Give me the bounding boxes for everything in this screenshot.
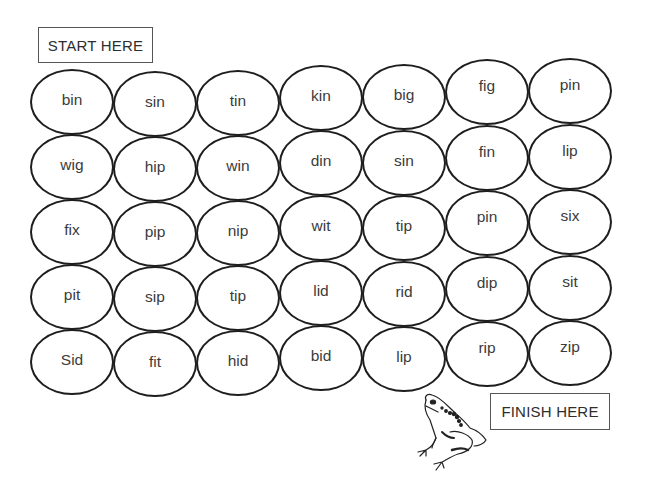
stone-r3-c3[interactable]: nip — [196, 200, 280, 266]
stone-r3-c5[interactable]: tip — [362, 195, 446, 261]
stone-r2-c7[interactable]: lip — [528, 124, 612, 190]
stone-word: fix — [64, 221, 80, 239]
stone-r5-c6[interactable]: rip — [445, 321, 529, 387]
stone-r2-c2[interactable]: hip — [113, 136, 197, 202]
stone-word: kin — [311, 87, 331, 105]
start-here-label: START HERE — [38, 27, 153, 63]
stone-word: fit — [149, 353, 161, 371]
stone-word: pit — [64, 286, 80, 304]
stone-r4-c1[interactable]: pit — [30, 264, 114, 330]
stone-r1-c5[interactable]: big — [362, 64, 446, 130]
frog-icon — [412, 390, 496, 474]
stone-word: hip — [145, 158, 166, 176]
stone-word: dip — [477, 274, 498, 292]
stone-word: din — [311, 152, 332, 170]
stone-r5-c1[interactable]: Sid — [30, 329, 114, 395]
stone-word: bin — [62, 91, 83, 109]
stone-r5-c2[interactable]: fit — [113, 331, 197, 397]
stone-r3-c4[interactable]: wit — [279, 195, 363, 261]
stone-r4-c5[interactable]: rid — [362, 261, 446, 327]
stone-word: lid — [313, 282, 329, 300]
stone-r2-c6[interactable]: fin — [445, 125, 529, 191]
stone-r3-c7[interactable]: six — [528, 189, 612, 255]
stone-word: sin — [394, 152, 414, 170]
stone-word: rip — [478, 339, 495, 357]
stone-r3-c1[interactable]: fix — [30, 199, 114, 265]
stone-word: tip — [396, 217, 412, 235]
stone-r4-c4[interactable]: lid — [279, 260, 363, 326]
stone-word: zip — [560, 338, 580, 356]
stone-r4-c7[interactable]: sit — [528, 255, 612, 321]
stone-word: pip — [145, 223, 166, 241]
stone-word: sip — [145, 288, 165, 306]
stone-word: lip — [396, 348, 412, 366]
stone-r5-c7[interactable]: zip — [528, 320, 612, 386]
stone-r5-c5[interactable]: lip — [362, 326, 446, 392]
stone-word: tip — [230, 287, 246, 305]
stone-r2-c4[interactable]: din — [279, 130, 363, 196]
stone-word: big — [394, 86, 415, 104]
stone-r5-c3[interactable]: hid — [196, 330, 280, 396]
stone-word: wit — [312, 217, 331, 235]
stone-word: nip — [228, 222, 249, 240]
stone-word: six — [561, 207, 580, 225]
stone-word: tin — [230, 92, 246, 110]
stone-r4-c3[interactable]: tip — [196, 265, 280, 331]
stone-r2-c3[interactable]: win — [196, 135, 280, 201]
stone-r3-c2[interactable]: pip — [113, 201, 197, 267]
stone-word: lip — [562, 142, 578, 160]
finish-here-label: FINISH HERE — [490, 393, 610, 430]
stone-word: wig — [60, 156, 83, 174]
stone-r5-c4[interactable]: bid — [279, 325, 363, 391]
stone-r1-c2[interactable]: sin — [113, 71, 197, 137]
stone-word: hid — [228, 352, 249, 370]
stone-r4-c2[interactable]: sip — [113, 266, 197, 332]
stone-r1-c4[interactable]: kin — [279, 65, 363, 131]
stone-word: Sid — [61, 351, 83, 369]
stone-r1-c3[interactable]: tin — [196, 70, 280, 136]
stone-word: bid — [311, 347, 332, 365]
stone-word: sit — [562, 273, 578, 291]
stone-word: win — [226, 157, 249, 175]
stone-r2-c1[interactable]: wig — [30, 134, 114, 200]
stone-r1-c7[interactable]: pin — [528, 58, 612, 124]
stone-word: rid — [395, 283, 412, 301]
stone-r1-c6[interactable]: fig — [445, 59, 529, 125]
stone-word: fig — [479, 77, 495, 95]
stone-r1-c1[interactable]: bin — [30, 69, 114, 135]
stone-r4-c6[interactable]: dip — [445, 256, 529, 322]
stone-word: pin — [560, 76, 581, 94]
stone-word: pin — [477, 208, 498, 226]
stone-r2-c5[interactable]: sin — [362, 130, 446, 196]
stone-word: fin — [479, 143, 495, 161]
stone-word: sin — [145, 93, 165, 111]
stone-r3-c6[interactable]: pin — [445, 190, 529, 256]
